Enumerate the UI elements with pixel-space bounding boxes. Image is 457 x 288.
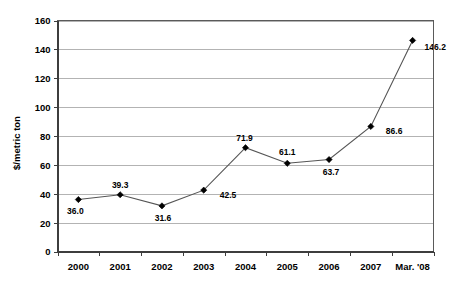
data-point-label: 42.5 — [220, 190, 237, 200]
x-tick-label: 2002 — [151, 261, 172, 272]
data-point-label: 86.6 — [386, 126, 403, 136]
data-point-label: 63.7 — [323, 167, 340, 177]
data-point-label: 71.9 — [236, 133, 253, 143]
x-tick-label: 2006 — [318, 261, 339, 272]
data-point-marker — [75, 196, 81, 202]
y-tick-label: 40 — [40, 189, 51, 200]
x-tick-label: 2004 — [235, 261, 257, 272]
data-point-label: 61.1 — [279, 147, 296, 157]
data-point-label: 36.0 — [67, 206, 84, 216]
y-tick-label: 20 — [40, 218, 51, 229]
x-tick-label: 2007 — [360, 261, 381, 272]
chart-plot-area: 020406080100120140160 200020012002200320… — [0, 0, 457, 288]
gridlines — [58, 21, 434, 223]
x-tick-label: 2001 — [110, 261, 132, 272]
y-tick-label: 80 — [40, 131, 51, 142]
y-tick-label: 160 — [35, 15, 51, 26]
x-tick-label: Mar. '08 — [395, 261, 429, 272]
data-series-line — [78, 40, 412, 205]
data-point-label: 146.2 — [425, 42, 447, 52]
y-tick-label: 0 — [45, 246, 50, 257]
y-tick-label: 60 — [40, 160, 51, 171]
data-point-label: 39.3 — [112, 180, 129, 190]
y-tick-label: 100 — [35, 102, 51, 113]
data-point-marker — [410, 37, 416, 43]
data-point-marker — [159, 203, 165, 209]
data-point-label: 31.6 — [155, 213, 172, 223]
x-tick-label: 2003 — [193, 261, 214, 272]
x-tick-label: 2005 — [277, 261, 299, 272]
line-chart: $/metric ton 020406080100120140160 20002… — [0, 0, 457, 288]
series-polyline — [78, 40, 412, 205]
y-tick-label: 120 — [35, 73, 51, 84]
y-axis-tick-labels: 020406080100120140160 — [35, 15, 58, 257]
x-axis-tick-labels: 20002001200220032004200520062007Mar. '08 — [68, 261, 430, 272]
x-tick-label: 2000 — [68, 261, 89, 272]
data-point-marker — [117, 192, 123, 198]
y-tick-label: 140 — [35, 44, 51, 55]
